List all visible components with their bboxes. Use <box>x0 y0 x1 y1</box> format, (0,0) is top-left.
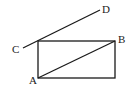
label-A: A <box>29 74 37 86</box>
label-B: B <box>118 33 125 45</box>
geometry-diagram: A B C D <box>0 0 135 88</box>
diagonal-AB <box>38 41 115 78</box>
label-D: D <box>102 3 110 15</box>
line-CD <box>23 10 100 48</box>
label-C: C <box>12 43 19 55</box>
